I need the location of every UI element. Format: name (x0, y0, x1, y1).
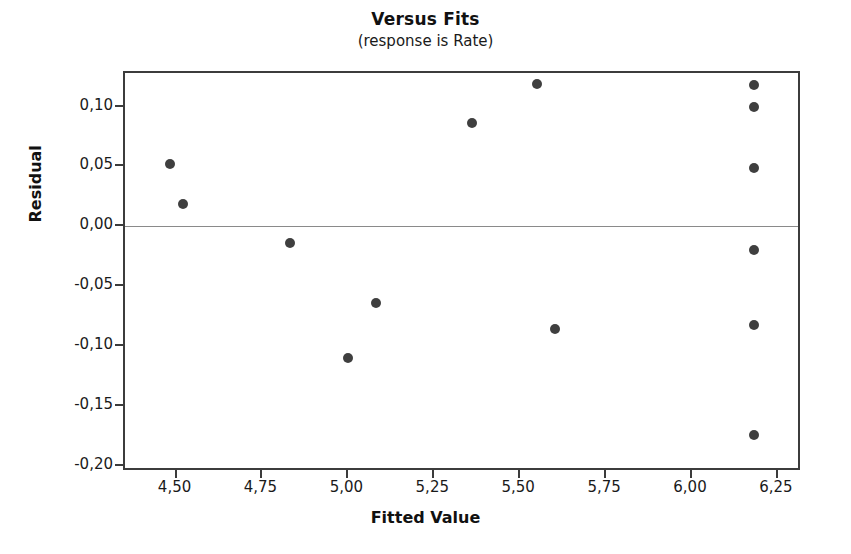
zero-reference-line (125, 226, 798, 227)
x-axis-tick-label: 5,75 (587, 478, 620, 496)
x-axis-tick-mark (604, 470, 606, 478)
y-axis-tick-label: 0,10 (0, 96, 113, 114)
x-axis-tick-label: 4,75 (244, 478, 277, 496)
data-point (749, 163, 759, 173)
plot-frame (123, 71, 800, 470)
y-axis-tick-mark (115, 464, 123, 466)
x-axis-tick-label: 6,00 (673, 478, 706, 496)
x-axis-tick-mark (346, 470, 348, 478)
x-axis-title: Fitted Value (0, 508, 851, 527)
y-axis-tick-label: -0,20 (0, 455, 113, 473)
x-axis-tick-label: 6,25 (759, 478, 792, 496)
x-axis-tick-mark (175, 470, 177, 478)
y-axis-tick-mark (115, 105, 123, 107)
y-axis-tick-mark (115, 224, 123, 226)
y-axis-tick-mark (115, 344, 123, 346)
x-axis-tick-label: 5,25 (416, 478, 449, 496)
x-axis-tick-mark (518, 470, 520, 478)
x-axis-tick-mark (260, 470, 262, 478)
data-point (749, 80, 759, 90)
versus-fits-residual-plot: Versus Fits (response is Rate) 0,100,050… (0, 0, 851, 554)
y-axis-tick-mark (115, 164, 123, 166)
y-axis-tick-label: 0,00 (0, 215, 113, 233)
y-axis-tick-mark (115, 284, 123, 286)
data-point (749, 430, 759, 440)
data-point (343, 353, 353, 363)
plot-area (125, 73, 798, 468)
data-point (178, 199, 188, 209)
y-axis-tick-mark (115, 404, 123, 406)
data-point (749, 320, 759, 330)
y-axis-tick-label: -0,10 (0, 335, 113, 353)
data-point (550, 324, 560, 334)
data-point (371, 298, 381, 308)
data-point (749, 245, 759, 255)
chart-title: Versus Fits (0, 8, 851, 30)
x-axis-tick-mark (776, 470, 778, 478)
y-axis-title: Residual (26, 197, 45, 223)
data-point (165, 159, 175, 169)
x-axis-tick-label: 5,00 (330, 478, 363, 496)
data-point (749, 102, 759, 112)
x-axis-tick-label: 4,50 (158, 478, 191, 496)
data-point (467, 118, 477, 128)
chart-subtitle: (response is Rate) (0, 31, 851, 52)
y-axis-tick-label: -0,05 (0, 275, 113, 293)
y-axis-tick-label: 0,05 (0, 155, 113, 173)
x-axis-tick-mark (690, 470, 692, 478)
chart-title-block: Versus Fits (response is Rate) (0, 8, 851, 52)
y-axis-tick-label: -0,15 (0, 395, 113, 413)
data-point (285, 238, 295, 248)
x-axis-tick-label: 5,50 (501, 478, 534, 496)
data-point (532, 79, 542, 89)
x-axis-tick-mark (432, 470, 434, 478)
